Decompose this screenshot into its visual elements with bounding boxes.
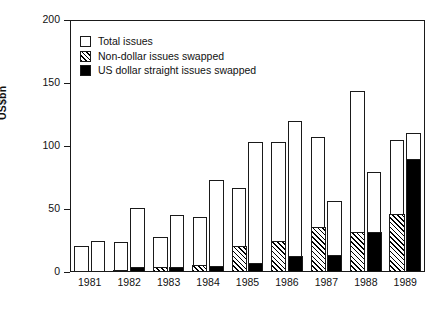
bar[interactable] <box>232 188 247 272</box>
bar[interactable] <box>288 121 303 272</box>
x-tick-label: 1989 <box>386 276 425 288</box>
bar[interactable] <box>74 246 89 272</box>
bar-chart: US$bn 050100150200 198119821983198419851… <box>0 0 443 313</box>
bar[interactable] <box>170 215 185 272</box>
x-tick-label: 1986 <box>267 276 306 288</box>
x-tick-label: 1985 <box>228 276 267 288</box>
bar[interactable] <box>390 140 405 272</box>
bar-segment-us-dollar-straight-swapped <box>113 270 128 272</box>
bar[interactable] <box>311 137 326 272</box>
bar-segment-us-dollar-straight-swapped <box>327 255 342 273</box>
bar[interactable] <box>114 242 129 272</box>
bar-segment-non-dollar-swapped <box>232 246 247 272</box>
x-tick-label: 1987 <box>307 276 346 288</box>
bar-segment-non-dollar-swapped <box>153 267 168 272</box>
bar[interactable] <box>153 237 168 272</box>
x-tick-label: 1988 <box>346 276 385 288</box>
bar[interactable] <box>406 133 421 272</box>
y-tick-label: 100 <box>42 139 60 151</box>
x-tick-label: 1982 <box>109 276 148 288</box>
bar[interactable] <box>271 142 286 272</box>
bar[interactable] <box>209 180 224 272</box>
legend-item[interactable]: Total issues <box>80 36 256 47</box>
bar-segment-non-dollar-swapped <box>389 214 404 272</box>
y-axis-label: US$bn <box>0 86 8 120</box>
bar[interactable] <box>130 208 145 272</box>
x-axis-ticks: 198119821983198419851986198719881989 <box>70 276 425 296</box>
legend-label: Non-dollar issues swapped <box>98 51 224 62</box>
legend-swatch-black-icon <box>80 65 91 76</box>
bar-segment-non-dollar-swapped <box>192 265 207 273</box>
bar-segment-non-dollar-swapped <box>311 227 326 272</box>
bar[interactable] <box>248 142 263 272</box>
y-tick-mark <box>64 272 70 273</box>
legend-label: Total issues <box>98 36 153 47</box>
bar-segment-us-dollar-straight-swapped <box>209 266 224 272</box>
bar[interactable] <box>367 172 382 272</box>
bar-group <box>346 20 385 272</box>
bar-segment-non-dollar-swapped <box>350 232 365 272</box>
y-tick-label: 150 <box>42 76 60 88</box>
x-tick-label: 1983 <box>149 276 188 288</box>
bar-segment-us-dollar-straight-swapped <box>406 159 421 272</box>
y-tick-label: 50 <box>48 202 60 214</box>
bar-segment-non-dollar-swapped <box>271 241 286 273</box>
legend-item[interactable]: Non-dollar issues swapped <box>80 51 256 62</box>
bar-segment-us-dollar-straight-swapped <box>248 263 263 272</box>
bar-segment-us-dollar-straight-swapped <box>288 256 303 272</box>
bar-group <box>386 20 425 272</box>
bar[interactable] <box>193 217 208 272</box>
legend-item[interactable]: US dollar straight issues swapped <box>80 65 256 76</box>
bar-group <box>267 20 306 272</box>
bar-segment-us-dollar-straight-swapped <box>367 232 382 272</box>
y-tick-label: 0 <box>54 265 60 277</box>
bar[interactable] <box>350 91 365 272</box>
bar[interactable] <box>91 241 106 273</box>
x-tick-label: 1981 <box>70 276 109 288</box>
bar-segment-us-dollar-straight-swapped <box>130 267 145 272</box>
bar-group <box>307 20 346 272</box>
x-tick-label: 1984 <box>188 276 227 288</box>
legend-swatch-hatched-icon <box>80 51 91 62</box>
y-tick-label: 200 <box>42 13 60 25</box>
legend-swatch-white-outline-icon <box>80 36 91 47</box>
bar-segment-us-dollar-straight-swapped <box>169 267 184 272</box>
legend-label: US dollar straight issues swapped <box>98 65 256 76</box>
chart-legend: Total issuesNon-dollar issues swappedUS … <box>80 36 256 76</box>
bar[interactable] <box>327 201 342 272</box>
